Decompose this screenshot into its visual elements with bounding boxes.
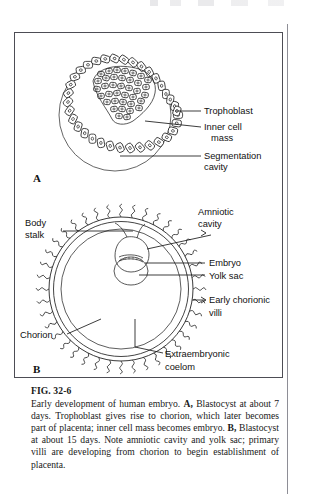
label-extraembryonic-coelom-line2: coelom <box>165 362 195 372</box>
label-early-chorionic-villi-line1: Early chorionic <box>209 295 270 305</box>
page-top-text-sliver <box>150 0 290 6</box>
label-trophoblast: Trophoblast <box>204 106 253 116</box>
label-chorion: Chorion <box>20 330 53 340</box>
caption-part-1: Early development of human embryo. <box>31 398 184 409</box>
panel-a-letter: A <box>33 172 41 184</box>
label-amniotic-cavity-line2: cavity <box>198 219 222 229</box>
label-inner-cell-mass-line1: Inner cell <box>204 122 242 132</box>
figure-caption: FIG. 32-6Early development of human embr… <box>31 385 279 471</box>
column-divider-rule <box>287 24 288 494</box>
figure-number: FIG. 32-6 <box>31 385 279 397</box>
figure-frame: Trophoblast Inner cell mass Segmentation… <box>14 32 283 378</box>
scanned-page: Trophoblast Inner cell mass Segmentation… <box>0 0 310 494</box>
label-body-stalk-line1: Body <box>25 218 47 228</box>
label-segmentation-cavity-line1: Segmentation <box>204 151 261 161</box>
label-segmentation-cavity-line2: cavity <box>204 162 228 172</box>
panel-a-blastocyst-7-days: Trophoblast Inner cell mass Segmentation… <box>15 33 282 201</box>
panel-b-letter: B <box>33 363 40 375</box>
label-inner-cell-mass-line2: mass <box>211 133 234 143</box>
label-early-chorionic-villi-line2: villi <box>209 308 222 318</box>
label-extraembryonic-coelom-line1: Extraembryonic <box>165 349 230 359</box>
panel-b-blastocyst-15-days: Body stalk Amniotic cavity Embryo Yolk s… <box>15 201 282 379</box>
label-yolk-sac: Yolk sac <box>209 271 244 281</box>
label-body-stalk-line2: stalk <box>25 230 44 240</box>
label-amniotic-cavity-line1: Amniotic <box>198 207 234 217</box>
label-embryo: Embryo <box>209 258 241 268</box>
caption-bold-a: A, <box>184 398 193 409</box>
